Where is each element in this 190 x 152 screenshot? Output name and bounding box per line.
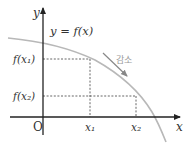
curve-label: y = f(x) [49,24,93,38]
decrease-annotation: 감소 [116,54,132,65]
fx2-label: f(x₂) [12,90,35,102]
origin-label: O [33,120,43,134]
guide-lines [43,59,136,117]
x-axis-label: x [176,120,183,134]
y-axis-label: y [32,6,40,20]
fx1-label: f(x₁) [12,53,35,65]
function-graph: y x O y = f(x) f(x₁) f(x₂) x₁ x₂ 감소 [0,0,190,152]
x1-label: x₁ [85,121,95,133]
x2-label: x₂ [131,121,141,133]
